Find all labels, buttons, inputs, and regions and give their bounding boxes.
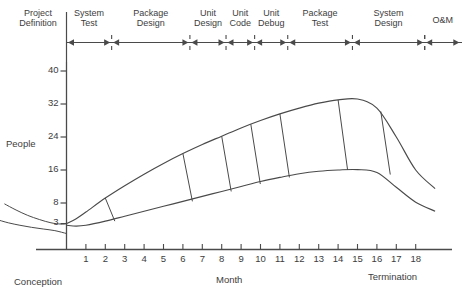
phase-arrow-right <box>191 39 197 45</box>
x-tick-label-6: 6 <box>173 254 193 265</box>
x-tick-label-11: 11 <box>270 254 290 265</box>
phase-arrow-right <box>256 39 262 45</box>
termination-arrow-icon <box>434 273 446 283</box>
x-tick-label-12: 12 <box>289 254 309 265</box>
x-tick-label-8: 8 <box>212 254 232 265</box>
phase-arrow-right <box>354 39 360 45</box>
x-tick-label-18: 18 <box>406 254 426 265</box>
x-tick-label-7: 7 <box>192 254 212 265</box>
x-tick-label-13: 13 <box>309 254 329 265</box>
lower-staffing-curve <box>67 169 436 226</box>
x-tick-label-5: 5 <box>154 254 174 265</box>
x-tick-label-2: 2 <box>95 254 115 265</box>
x-tick-label-4: 4 <box>134 254 154 265</box>
phase-arrow-left <box>345 39 351 45</box>
phase-arrow-right <box>289 39 295 45</box>
band-divider-line <box>338 100 348 170</box>
x-tick-label-15: 15 <box>348 254 368 265</box>
phase-arrow-left <box>247 39 253 45</box>
y-tick-label-40: 40 <box>33 65 59 76</box>
chart-root: ProjectDefinitionSystemTestPackageDesign… <box>0 0 467 303</box>
upper-staffing-curve <box>67 98 436 223</box>
phase-arrow-left <box>104 39 110 45</box>
y-tick-label-24: 24 <box>33 131 59 142</box>
band-divider-line <box>280 114 290 178</box>
band-divider-line <box>183 154 193 202</box>
y-tick-label-3: 3 <box>33 217 59 228</box>
band-divider-line <box>251 124 260 184</box>
y-axis-title: People <box>6 139 36 150</box>
band-divider-line <box>222 136 232 191</box>
phase-label-o-m: O&M <box>405 15 467 25</box>
phase-arrow-right <box>113 39 119 45</box>
x-tick-label-3: 3 <box>115 254 135 265</box>
phase-arrow-right <box>68 39 74 45</box>
phase-arrow-right <box>426 39 432 45</box>
x-tick-label-14: 14 <box>328 254 348 265</box>
x-tick-label-17: 17 <box>386 254 406 265</box>
y-tick-label-8: 8 <box>33 197 59 208</box>
phase-arrow-right <box>228 39 234 45</box>
y-tick-label-32: 32 <box>33 98 59 109</box>
band-divider-line <box>381 111 391 174</box>
phase-label-package-test: PackageTest <box>282 8 358 29</box>
x-tick-label-9: 9 <box>231 254 251 265</box>
conception-arrow-icon <box>2 278 14 288</box>
phase-arrow-left <box>280 39 286 45</box>
band-divider-line <box>105 198 115 221</box>
phase-arrow-left <box>182 39 188 45</box>
x-tick-label-16: 16 <box>367 254 387 265</box>
x-tick-label-1: 1 <box>76 254 96 265</box>
phase-arrow-left <box>417 39 423 45</box>
phase-arrow-left <box>219 39 225 45</box>
x-tick-label-10: 10 <box>251 254 271 265</box>
y-tick-label-16: 16 <box>33 164 59 175</box>
phase-arrow-left <box>453 39 459 45</box>
